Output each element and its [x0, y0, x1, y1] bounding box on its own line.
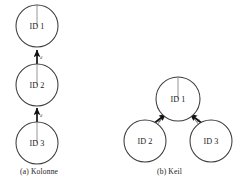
- link-id3-id2: d: [37, 108, 43, 122]
- figure-formations: d d ID 1 ID 2 ID: [0, 0, 243, 190]
- node-label-keil-id2: ID 2: [138, 137, 153, 146]
- panel-keil: α α d d ID 1: [124, 77, 232, 162]
- caption-kolonne: (a) Kolonne: [20, 167, 58, 176]
- link-distance-label-id2-id1: d: [40, 55, 43, 60]
- panel-kolonne: d d ID 1 ID 2 ID: [16, 5, 58, 164]
- node-label-id3: ID 3: [30, 139, 45, 148]
- link-id2-id1: d: [37, 50, 43, 64]
- node-kolonne-id1[interactable]: ID 1: [16, 5, 58, 47]
- node-keil-id2[interactable]: ID 2: [124, 120, 166, 162]
- node-kolonne-id2[interactable]: ID 2: [16, 64, 58, 106]
- node-label-id1: ID 1: [30, 22, 45, 31]
- node-label-keil-id1: ID 1: [171, 95, 186, 104]
- node-kolonne-id3[interactable]: ID 3: [16, 122, 58, 164]
- link-distance-label-id3-id2: d: [40, 113, 43, 118]
- figure-canvas: d d ID 1 ID 2 ID: [0, 0, 243, 190]
- node-label-id2: ID 2: [30, 81, 45, 90]
- node-keil-id3[interactable]: ID 3: [190, 120, 232, 162]
- node-keil-id1[interactable]: ID 1: [156, 77, 200, 121]
- caption-keil: (b) Keil: [157, 167, 182, 176]
- node-label-keil-id3: ID 3: [204, 137, 219, 146]
